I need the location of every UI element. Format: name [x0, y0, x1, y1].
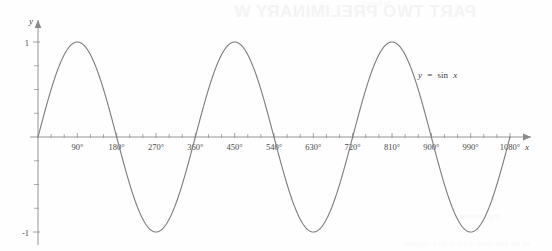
sine-curve-chart: 90°180°270°360°450°540°630°720°810°900°9… [0, 0, 552, 251]
x-tick-label: 810° [384, 142, 400, 152]
x-tick-label: 360° [187, 142, 203, 152]
x-tick-label: 990° [463, 142, 479, 152]
x-axis-tick-labels: 90°180°270°360°450°540°630°720°810°900°9… [71, 142, 520, 152]
annotation-equals: = [427, 70, 432, 80]
annotation-arg: x [452, 70, 457, 80]
x-tick-label: 450° [227, 142, 243, 152]
curve-annotation-text: y = sin x [417, 70, 457, 80]
y-axis-arrowhead [35, 20, 42, 28]
y-axis-tick-labels: -11 [22, 38, 29, 238]
x-tick-label: 720° [345, 142, 361, 152]
axes-group [30, 20, 531, 245]
x-tick-label: 270° [148, 142, 164, 152]
figure-canvas: PART TWO PRELIMINARY W in Book 1 trigono… [0, 0, 552, 251]
x-axis-label: x [524, 142, 529, 152]
x-tick-label: 900° [423, 142, 439, 152]
y-axis-label: y [28, 16, 33, 26]
x-tick-label: 90° [71, 142, 83, 152]
x-axis-arrowhead [523, 134, 531, 141]
annotation-y: y [417, 70, 422, 80]
x-tick-label: 180° [109, 142, 125, 152]
curve-annotation: y = sin x [417, 70, 457, 80]
x-tick-label: 540° [266, 142, 282, 152]
y-tick-label: 1 [25, 38, 29, 48]
y-tick-label: -1 [22, 228, 29, 238]
x-tick-label: 1080° [500, 142, 520, 152]
x-tick-label: 630° [305, 142, 321, 152]
annotation-fn: sin [438, 70, 449, 80]
